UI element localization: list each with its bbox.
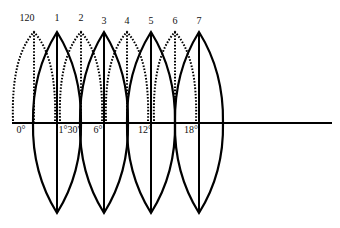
tick-label-0: 0°: [17, 124, 26, 135]
zone-label-5: 5: [149, 15, 154, 26]
tick-label-1-30: 1°30': [59, 124, 80, 135]
zone-label-7: 7: [197, 15, 202, 26]
zone-label-4: 4: [125, 15, 130, 26]
tick-label-18: 18°: [184, 124, 198, 135]
tick-label-12: 12°: [138, 124, 152, 135]
zone-label-6: 6: [173, 15, 178, 26]
tick-label-6: 6°: [94, 124, 103, 135]
zone-label-2: 2: [79, 12, 84, 23]
zone-label-3: 3: [102, 15, 107, 26]
zone-label-120: 120: [20, 12, 35, 23]
zone-label-1: 1: [55, 12, 60, 23]
projection-zone-diagram: 120 1 2 3 4 5 6 7 0° 1°30' 6° 12° 18°: [0, 0, 340, 228]
